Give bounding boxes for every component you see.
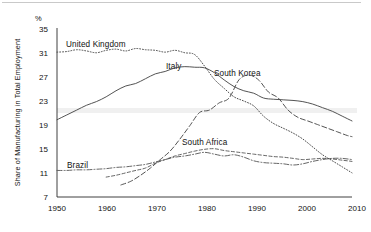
series-line-south-korea	[121, 75, 352, 185]
series-layer	[57, 48, 352, 184]
series-line-south-africa	[106, 149, 352, 177]
series-line-brazil	[57, 152, 352, 170]
